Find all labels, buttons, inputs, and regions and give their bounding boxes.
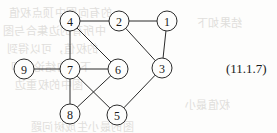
graph-edge-1-3 [163,31,166,58]
graph-node-7: 7 [60,59,80,79]
graph-node-4: 4 [60,11,80,31]
graph-node-label-1: 1 [164,15,170,29]
graph-node-label-6: 6 [115,63,121,77]
graph-node-8: 8 [60,104,80,124]
graph-edge-4-6 [77,28,111,62]
graph-node-label-9: 9 [21,63,27,77]
graph-node-label-4: 4 [67,15,73,29]
graph-node-9: 9 [14,59,34,79]
graph-edge-layer [34,21,166,108]
graph-edge-3-5 [124,75,155,108]
graph-node-layer: 123456789 [14,11,177,125]
graph-node-1: 1 [157,11,177,31]
equation-number-label: (11.1.7) [226,61,267,77]
graph-node-5: 5 [107,105,127,125]
graph-node-6: 6 [108,59,128,79]
graph-node-label-3: 3 [159,62,165,76]
graph-node-label-8: 8 [67,108,73,122]
graph-node-3: 3 [152,58,172,78]
graph-node-label-7: 7 [67,63,73,77]
graph-node-label-5: 5 [114,109,120,123]
graph-node-2: 2 [109,11,129,31]
graph-node-label-2: 2 [116,15,122,29]
graph-edge-2-3 [126,28,156,60]
figure-container: 的有向图中顶点权值中所有的边集合与图的权值，可以得到下面的结论，即图中的权重边图… [0,0,277,133]
